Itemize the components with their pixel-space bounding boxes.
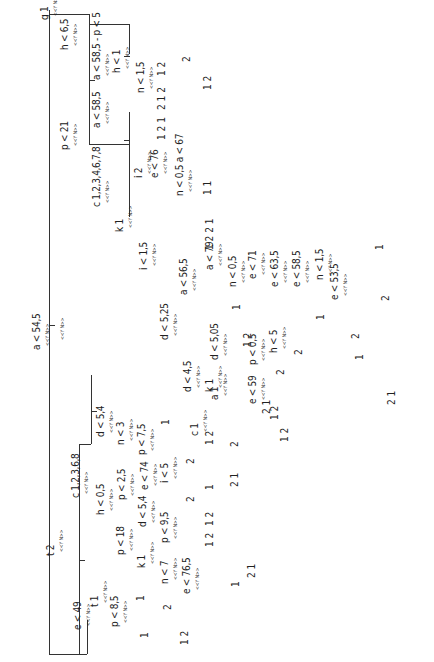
branch-marker: <<Y N>>	[283, 260, 288, 283]
tree-edge	[89, 80, 95, 81]
branch-marker: <<Y N>>	[59, 529, 64, 552]
leaf-class: 2	[186, 458, 196, 464]
branch-marker: <<Y N>>	[203, 409, 208, 432]
split-condition: t 2	[46, 545, 56, 556]
leaf-class: 2 1	[247, 564, 257, 578]
branch-marker: <<Y N>>	[73, 23, 78, 46]
leaf-class: 1 2	[205, 512, 215, 526]
leaf-class: 2 1	[387, 391, 397, 405]
split-condition: c 1,2,3,4,6,7,8	[92, 146, 102, 207]
branch-marker: <<Y N>>	[105, 53, 110, 76]
branch-marker: <<Y N>>	[103, 580, 108, 603]
leaf-class: 2 1 2	[157, 87, 167, 110]
leaf-class: 1	[232, 304, 242, 310]
leaf-class: 1 2	[180, 631, 190, 645]
split-condition: p < 9,5	[160, 512, 170, 543]
leaf-class: 1 2	[243, 333, 253, 347]
split-condition: h < 0,5	[96, 484, 106, 515]
split-condition: a < 54,5	[32, 314, 42, 350]
leaf-class: 1	[375, 244, 385, 250]
split-condition: p < 21	[60, 121, 70, 150]
leaf-class: 1	[161, 419, 171, 425]
tree-edge	[89, 144, 129, 145]
split-condition: a < 58,5	[92, 92, 102, 128]
branch-marker: <<Y N>>	[343, 273, 348, 296]
split-condition: c 1	[190, 423, 200, 436]
decision-tree: a < 54,5<<Y N>><<Y N>>g 1<<Y N>>p < 21<<…	[0, 0, 434, 662]
branch-marker: <<Y N>>	[129, 418, 134, 441]
split-condition: d < 5,25	[160, 303, 170, 340]
tree-edge	[124, 140, 130, 141]
split-condition: e < 49	[73, 602, 83, 630]
split-condition: e < 76,5	[182, 558, 192, 594]
branch-marker: <<Y N>>	[163, 151, 168, 174]
split-condition: g 1	[40, 7, 50, 20]
tree-edge	[79, 560, 85, 561]
branch-marker: <<Y N>>	[218, 243, 223, 266]
leaf-class: 1	[231, 581, 241, 587]
branch-marker: <<Y N>>	[151, 500, 156, 523]
branch-marker: <<Y N>>	[261, 338, 266, 361]
branch-marker: <<Y N>>	[150, 541, 155, 564]
branch-marker: <<Y N>>	[196, 365, 201, 388]
split-condition: k 1	[115, 219, 125, 232]
split-condition: c 1,2,3,6,8	[71, 453, 81, 498]
tree-edge	[79, 444, 91, 445]
split-condition: h < 1	[112, 50, 122, 73]
leaf-class: 2	[381, 295, 391, 301]
leaf-class: 1 2	[205, 533, 215, 547]
split-condition: d < 4,5	[183, 361, 193, 392]
branch-marker: <<Y N>>	[149, 66, 154, 89]
branch-marker: <<Y N>>	[109, 410, 114, 433]
split-condition: k 1	[137, 555, 147, 568]
branch-marker: <<Y N>>	[223, 373, 228, 396]
leaf-class: 1	[140, 632, 150, 638]
leaf-class: 1	[316, 314, 326, 320]
branch-marker: <<Y N>>	[105, 180, 110, 203]
branch-marker: <<Y N>>	[261, 377, 266, 400]
split-condition: e < 53,5	[330, 264, 340, 300]
branch-marker: <<Y N>>	[45, 323, 50, 346]
branch-marker: <<Y N>>	[282, 326, 287, 349]
branch-marker: <<Y N>>	[130, 473, 135, 496]
split-condition: n < 0,5 a < 67	[175, 134, 185, 196]
branch-marker: <<Y N>>	[173, 313, 178, 336]
split-condition: i < 1,5	[139, 242, 149, 270]
branch-marker: <<Y N>>	[129, 528, 134, 551]
split-condition: p < 18	[116, 526, 126, 555]
split-condition: i < 5	[160, 463, 170, 483]
branch-marker: <<Y N>>	[109, 488, 114, 511]
leaf-class: 2	[186, 496, 196, 502]
branch-marker: <<Y N>>	[150, 428, 155, 451]
tree-edge	[89, 14, 90, 144]
tree-edge	[129, 112, 130, 217]
split-condition: n < 3	[116, 422, 126, 445]
split-condition: h < 5	[269, 330, 279, 353]
split-condition: a < 56,5	[179, 259, 189, 295]
branch-marker: <<Y N>>	[188, 169, 193, 192]
leaf-class: 1	[355, 354, 365, 360]
tree-edge	[91, 375, 92, 444]
tree-edge	[49, 654, 79, 655]
split-condition: e < 76	[150, 150, 160, 178]
leaf-class: 2	[276, 369, 286, 375]
branch-marker: <<Y N>>	[53, 0, 58, 16]
leaf-class: 2 1	[230, 473, 240, 487]
branch-marker: <<Y N>>	[173, 456, 178, 479]
leaf-class: 2	[351, 333, 361, 339]
leaf-class: 2	[182, 56, 192, 62]
split-condition: d < 5,05	[210, 323, 220, 360]
branch-marker: <<Y N>>	[73, 123, 78, 146]
leaf-class: 1 1	[203, 181, 213, 195]
branch-marker: <<Y N>>	[152, 243, 157, 266]
branch-marker: <<Y N>>	[153, 463, 158, 486]
leaf-class: 1 2	[157, 62, 167, 76]
split-condition: p < 7,5	[137, 424, 147, 455]
split-condition: e < 59	[248, 376, 258, 404]
branch-marker: <<Y N>>	[84, 471, 89, 494]
leaf-class: 2	[294, 349, 304, 355]
branch-marker: <<Y N>>	[223, 333, 228, 356]
branch-marker: <<Y N>>	[192, 268, 197, 291]
tree-edge	[79, 654, 87, 655]
branch-marker: <<Y N>>	[105, 101, 110, 124]
